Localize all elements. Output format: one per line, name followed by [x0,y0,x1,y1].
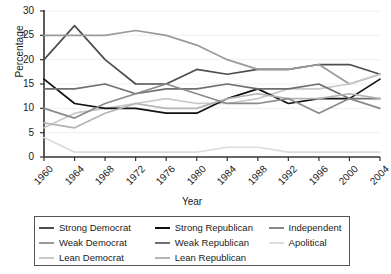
legend-column-1: Strong DemocratWeak DemocratLean Democra… [39,221,155,265]
legend-swatch-line-icon [39,257,54,259]
legend-swatch-line-icon [155,257,170,259]
legend-label: Weak Republican [175,237,249,248]
series-line-7 [44,138,380,153]
legend-swatch-line-icon [39,227,54,229]
legend-label: Lean Democrat [59,252,124,263]
legend-item[interactable]: Weak Democrat [39,236,155,249]
legend-swatch-line-icon [39,242,54,244]
legend-swatch-line-icon [155,227,170,229]
legend-swatch-line-icon [269,227,284,229]
y-tick-label: 0 [8,152,34,162]
legend-item[interactable]: Weak Republican [155,236,269,249]
series-line-2 [44,74,380,128]
y-tick-label: 25 [8,30,34,40]
plot-area: Percentage Year 051015202530 19601964196… [0,0,384,214]
legend-item[interactable]: Lean Democrat [39,251,155,264]
series-line-0 [44,26,380,84]
legend-label: Lean Republican [175,252,246,263]
legend-label: Strong Democrat [59,222,131,233]
y-tick-label: 20 [8,55,34,65]
legend-label: Independent [289,222,342,233]
legend-swatch-line-icon [155,242,170,244]
y-tick-label: 10 [8,103,34,113]
legend-swatch-line-icon [269,242,284,244]
legend-item[interactable]: Apolitical [269,236,349,249]
y-tick-label: 15 [8,79,34,89]
legend-label: Strong Republican [175,222,253,233]
legend-item[interactable]: Independent [269,221,349,234]
legend-label: Weak Democrat [59,237,127,248]
x-axis-label: Year [0,196,384,207]
chart-legend: Strong DemocratWeak DemocratLean Democra… [34,216,350,266]
series-line-1 [44,30,380,84]
legend-item[interactable]: Lean Republican [155,251,269,264]
y-tick-label: 30 [8,6,34,16]
y-tick-label: 5 [8,128,34,138]
legend-column-2: Strong RepublicanWeak RepublicanLean Rep… [155,221,269,265]
legend-item[interactable]: Strong Democrat [39,221,155,234]
legend-item[interactable]: Strong Republican [155,221,269,234]
legend-label: Apolitical [289,237,327,248]
legend-column-3: IndependentApolitical [269,221,349,265]
